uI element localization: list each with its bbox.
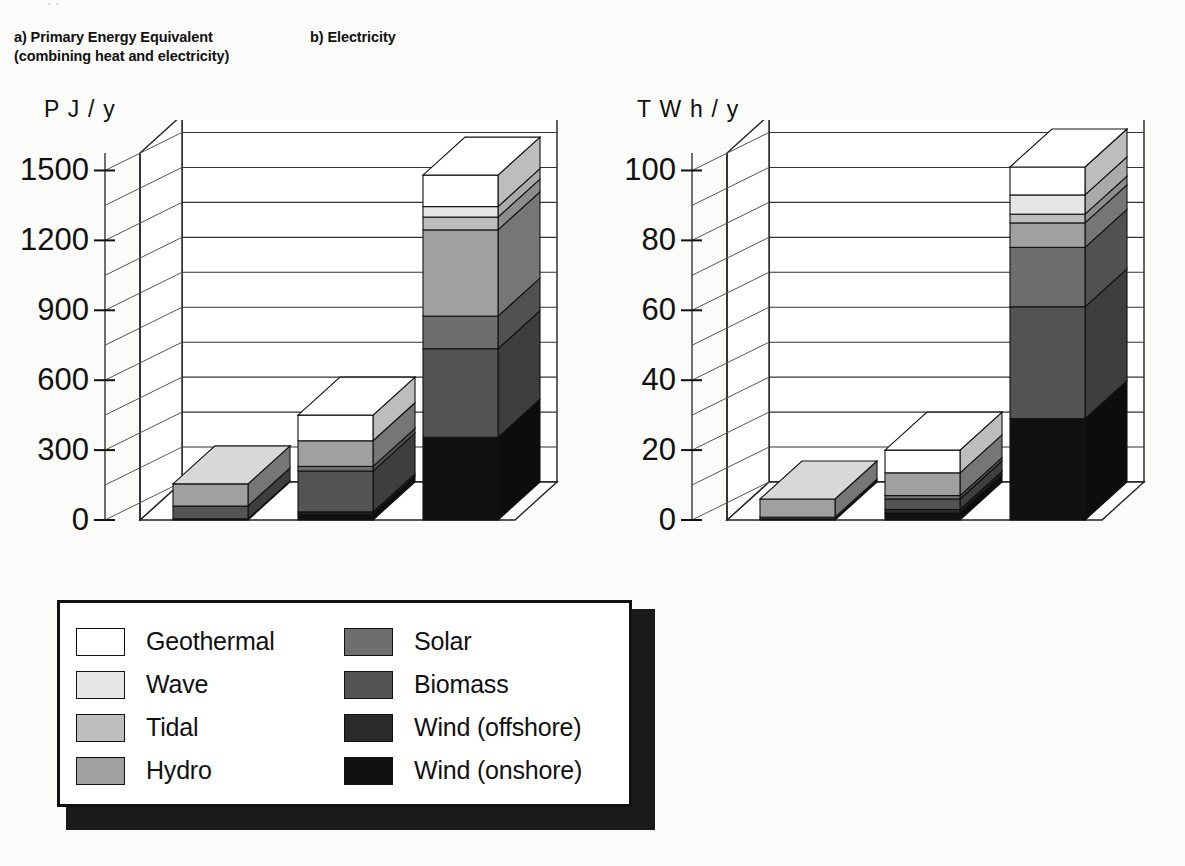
legend-swatch-hydro (76, 757, 125, 785)
bar-segment-front (1010, 307, 1085, 419)
chart-svg: 030060090012001500199020052020 (0, 120, 600, 550)
y-tick-label: 80 (642, 222, 676, 257)
legend-swatch-wind-offshore (344, 714, 393, 742)
x-tick-label: 1990 (775, 545, 844, 550)
bar-group[interactable] (298, 377, 415, 520)
panel-a-title: a) Primary Energy Equivalent (combining … (14, 28, 229, 66)
bar-segment-front (885, 499, 960, 509)
y-tick-label: 100 (624, 152, 676, 187)
bar-segment-front (1010, 419, 1085, 520)
y-tick-label: 1500 (20, 152, 89, 187)
legend-item-hydro[interactable]: Hydro (76, 749, 344, 792)
legend-item-tidal[interactable]: Tidal (76, 706, 344, 749)
y-tick-label: 0 (72, 502, 89, 537)
bar-segment-front (1010, 167, 1085, 195)
bar-group[interactable] (423, 137, 540, 520)
legend: Geothermal Wave Tidal Hydro So (57, 600, 655, 830)
y-tick-label: 0 (659, 502, 676, 537)
legend-label-wave: Wave (146, 670, 208, 699)
bar-segment-front (885, 513, 960, 520)
bar-segment-front (298, 441, 373, 467)
legend-item-wind-onshore[interactable]: Wind (onshore) (344, 749, 624, 792)
legend-swatch-biomass (344, 671, 393, 699)
y-tick-label: 20 (642, 432, 676, 467)
bar-segment-front (173, 484, 248, 506)
legend-column-right: Solar Biomass Wind (offshore) Wind (onsh… (344, 620, 624, 804)
legend-label-hydro: Hydro (146, 756, 212, 785)
bar-segment-front (423, 230, 498, 316)
bar-segment-front (423, 437, 498, 520)
legend-box: Geothermal Wave Tidal Hydro So (57, 600, 632, 807)
plot-left-wall (727, 120, 769, 520)
legend-label-geothermal: Geothermal (146, 627, 275, 656)
legend-swatch-wind-onshore (344, 757, 393, 785)
cropped-header-text: renewable energy (0, 0, 1185, 5)
legend-label-wind-offshore: Wind (offshore) (414, 713, 581, 742)
bar-segment-front (423, 207, 498, 217)
bar-segment-front (423, 349, 498, 438)
panel-b-title: b) Electricity (310, 28, 396, 47)
bar-segment-front (1010, 223, 1085, 247)
legend-item-wave[interactable]: Wave (76, 663, 344, 706)
x-tick-label: 2005 (313, 545, 382, 550)
x-tick-label: 2005 (900, 545, 969, 550)
legend-label-tidal: Tidal (146, 713, 198, 742)
legend-swatch-solar (344, 628, 393, 656)
bar-segment-front (1010, 195, 1085, 214)
bar-segment-front (298, 415, 373, 441)
legend-item-geothermal[interactable]: Geothermal (76, 620, 344, 663)
bar-segment-front (423, 316, 498, 349)
legend-label-solar: Solar (414, 627, 471, 656)
legend-label-biomass: Biomass (414, 670, 508, 699)
y-tick-label: 60 (642, 292, 676, 327)
bar-segment-front (1010, 247, 1085, 306)
bar-segment-front (173, 506, 248, 519)
x-tick-label: 1990 (188, 545, 257, 550)
bar-segment-front (423, 217, 498, 230)
legend-swatch-wave (76, 671, 125, 699)
bar-segment-front (298, 471, 373, 512)
bar-segment-front (298, 466, 373, 471)
y-tick-label: 40 (642, 362, 676, 397)
bar-segment-front (885, 450, 960, 473)
plot-left-wall (140, 120, 182, 520)
chart-electricity: 020406080100199020052020 (592, 120, 1185, 550)
y-tick-label: 900 (37, 292, 89, 327)
x-tick-label: 2020 (1025, 545, 1094, 550)
legend-column-left: Geothermal Wave Tidal Hydro (76, 620, 344, 804)
x-tick-label: 2020 (438, 545, 507, 550)
legend-item-wind-offshore[interactable]: Wind (offshore) (344, 706, 624, 749)
chart-svg: 020406080100199020052020 (592, 120, 1185, 550)
legend-item-solar[interactable]: Solar (344, 620, 624, 663)
legend-swatch-tidal (76, 714, 125, 742)
bar-segment-front (1010, 214, 1085, 223)
bar-segment-front (423, 175, 498, 206)
y-tick-label: 300 (37, 432, 89, 467)
chart-primary-energy-equivalent: 030060090012001500199020052020 (0, 120, 600, 550)
panel-b-unit-label: T W h / y (637, 96, 739, 123)
bar-segment-front (298, 514, 373, 520)
bar-segment-front (885, 473, 960, 496)
legend-label-wind-onshore: Wind (onshore) (414, 756, 582, 785)
bar-group[interactable] (1010, 129, 1127, 520)
legend-swatch-geothermal (76, 628, 125, 656)
y-tick-label: 1200 (20, 222, 89, 257)
panel-a-unit-label: P J / y (44, 96, 116, 123)
y-tick-label: 600 (37, 362, 89, 397)
bar-segment-front (760, 499, 835, 517)
legend-item-biomass[interactable]: Biomass (344, 663, 624, 706)
